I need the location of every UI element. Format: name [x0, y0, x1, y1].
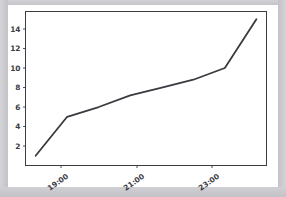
- axes-frame: [26, 12, 267, 166]
- x-tick-label: 21:00: [122, 172, 146, 193]
- y-tick-label: 10: [10, 64, 20, 73]
- x-tick-label: 19:00: [46, 172, 70, 193]
- y-tick-label: 4: [15, 122, 20, 131]
- line-chart: 2468101214 19:0021:0023:00: [0, 0, 286, 197]
- y-tick-label: 12: [10, 44, 20, 53]
- y-tick-label: 2: [15, 142, 20, 151]
- y-tick-label: 6: [15, 103, 20, 112]
- x-tick-label: 23:00: [197, 172, 221, 193]
- y-tick-label: 14: [10, 25, 20, 34]
- y-axis-ticks: 2468101214: [10, 25, 25, 151]
- y-tick-label: 8: [15, 83, 20, 92]
- chart-screenshot-root: 2468101214 19:0021:0023:00: [0, 0, 286, 197]
- x-axis-ticks: 19:0021:0023:00: [46, 166, 221, 193]
